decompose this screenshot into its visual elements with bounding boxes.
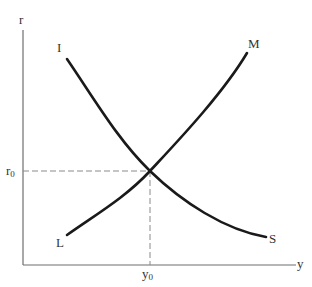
is-curve-path [67, 59, 266, 237]
lm-curve: L M [56, 36, 260, 250]
lm-curve-path [67, 53, 247, 235]
axes: r y [19, 12, 304, 271]
equilibrium-guides: r0 y0 [6, 163, 154, 282]
r0-label: r0 [6, 163, 15, 179]
is-curve: I S [57, 40, 276, 246]
lm-curve-end-label: M [248, 36, 260, 51]
is-curve-end-label: S [269, 231, 276, 246]
is-lm-diagram: r y r0 y0 I S L M [0, 0, 312, 287]
y0-label: y0 [142, 266, 154, 282]
vertical-axis-label: r [19, 12, 24, 27]
is-curve-start-label: I [57, 40, 61, 55]
lm-curve-start-label: L [56, 235, 64, 250]
horizontal-axis-label: y [297, 256, 304, 271]
